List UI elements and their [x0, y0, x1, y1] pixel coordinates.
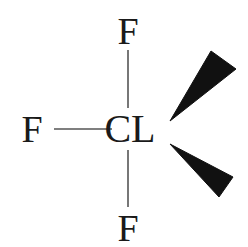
wedge-upper-right-icon	[170, 51, 236, 121]
molecule-diagram-canvas: F F F CL	[0, 0, 248, 247]
atom-label-fluorine-bottom: F	[108, 209, 148, 247]
atom-label-fluorine-left: F	[12, 110, 52, 148]
wedge-lower-right-icon	[170, 144, 233, 197]
atom-label-fluorine-top: F	[108, 12, 148, 50]
atom-label-chlorine-center: CL	[95, 109, 165, 149]
